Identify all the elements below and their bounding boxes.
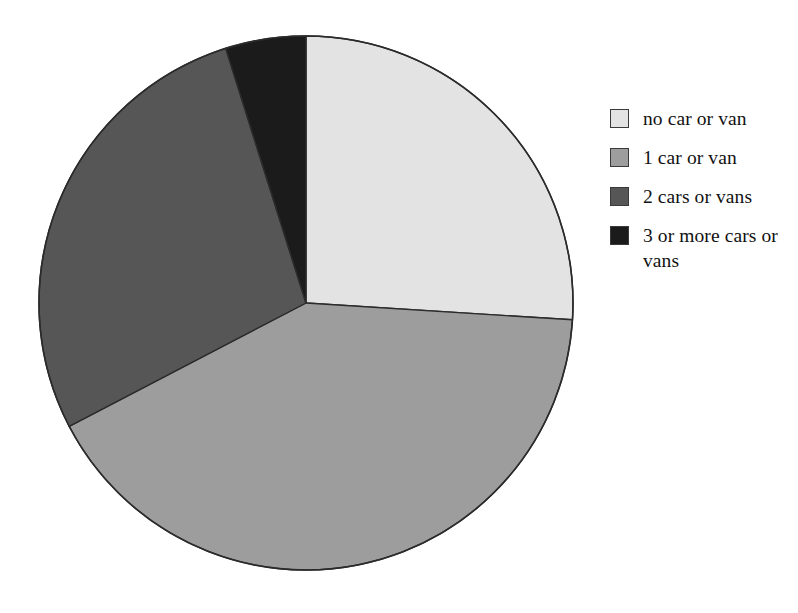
pie-slice	[306, 36, 573, 320]
legend-swatch-icon-1	[610, 148, 629, 167]
legend-item-1-car-or-van: 1 car or van	[610, 145, 794, 170]
pie-slice-group	[39, 36, 573, 570]
legend-swatch-icon-2	[610, 187, 629, 206]
legend-swatch-icon-3	[610, 226, 629, 245]
pie-chart-figure: no car or van 1 car or van 2 cars or van…	[0, 0, 798, 613]
legend-item-3-or-more-cars-or-vans: 3 or more cars or vans	[610, 223, 794, 273]
legend-label-3: 3 or more cars or vans	[643, 223, 794, 273]
legend-label-0: no car or van	[643, 106, 747, 131]
chart-legend: no car or van 1 car or van 2 cars or van…	[610, 106, 794, 287]
legend-item-2-cars-or-vans: 2 cars or vans	[610, 184, 794, 209]
pie-chart-canvas	[0, 0, 798, 613]
legend-swatch-icon-0	[610, 109, 629, 128]
legend-item-no-car-or-van: no car or van	[610, 106, 794, 131]
legend-label-2: 2 cars or vans	[643, 184, 752, 209]
legend-label-1: 1 car or van	[643, 145, 737, 170]
